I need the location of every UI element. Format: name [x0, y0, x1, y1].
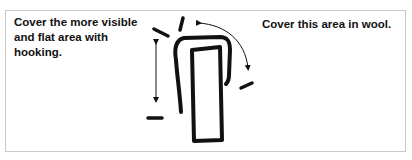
tick-marks [148, 18, 252, 118]
inner-rectangle-shape [192, 47, 222, 141]
hooking-diagram [0, 0, 412, 160]
curved-double-arrow [199, 23, 248, 68]
